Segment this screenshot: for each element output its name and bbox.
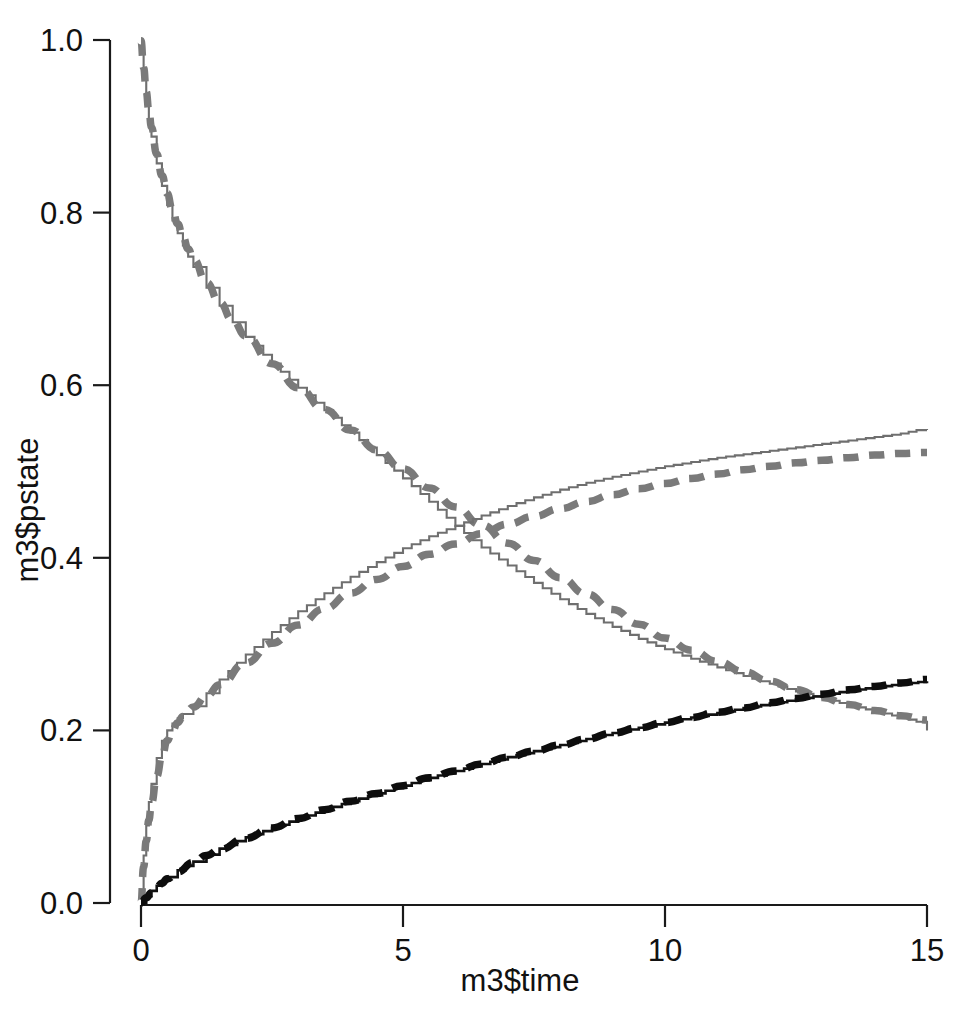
y-tick-label: 0.6 [40,368,83,403]
x-axis-title: m3$time [461,963,580,998]
y-axis-title: m3$pstate [10,438,45,583]
y-tick-label: 0.8 [40,196,83,231]
y-tick-label: 1.0 [40,23,83,58]
chart-container: 0.00.20.40.60.81.0 051015 m3$time m3$pst… [0,0,966,1022]
x-tick-label: 0 [132,933,149,968]
line-chart-svg: 0.00.20.40.60.81.0 051015 m3$time m3$pst… [0,0,966,1022]
y-tick-label: 0.2 [40,713,83,748]
y-tick-label: 0.0 [40,886,83,921]
x-tick-label: 10 [648,933,682,968]
x-tick-label: 5 [394,933,411,968]
x-tick-label: 15 [910,933,944,968]
y-tick-label: 0.4 [40,541,83,576]
